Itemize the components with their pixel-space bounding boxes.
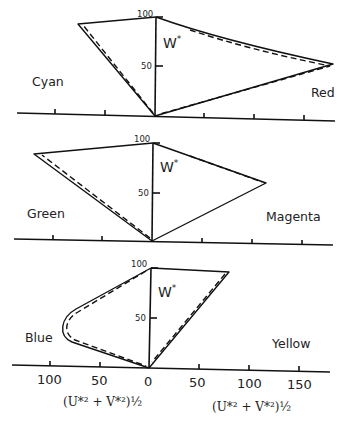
- magenta-boundary-solid: [152, 143, 266, 241]
- w-star-label: W*: [160, 158, 179, 175]
- label-yellow: Yellow: [271, 336, 310, 351]
- panel-cyan-red: 100 50 W* Cyan Red: [17, 9, 335, 121]
- color-solid-diagram: 100 50 W* Cyan Red 100 50 W* Green Magen…: [0, 0, 344, 428]
- horizontal-axis: [12, 365, 330, 372]
- x-tick-label: 0: [144, 374, 152, 389]
- label-cyan: Cyan: [32, 74, 64, 89]
- label-blue: Blue: [25, 330, 53, 345]
- panel-blue-yellow: 100 50 W* Blue Yellow 100 50 0 50 100 15…: [12, 259, 330, 414]
- x-axis-formula-left: (U*² + V*²)½: [63, 395, 142, 409]
- x-tick-label: 50: [189, 375, 206, 390]
- w-star-label: W*: [163, 34, 182, 51]
- tick-label-50: 50: [135, 313, 146, 323]
- x-tick-label: 50: [91, 373, 108, 388]
- tick-label-50: 50: [138, 188, 149, 198]
- w-axis: [155, 17, 156, 116]
- x-axis-formula-right: (U*² + V*²)½: [212, 400, 291, 414]
- tick-label-100: 100: [134, 134, 150, 144]
- x-tick-label: 100: [37, 372, 62, 387]
- red-boundary-solid: [155, 17, 333, 116]
- label-red: Red: [311, 85, 335, 100]
- tick-label-100: 100: [131, 259, 147, 269]
- label-green: Green: [27, 206, 65, 221]
- green-boundary-dashed: [42, 155, 150, 238]
- w-axis: [152, 143, 153, 241]
- label-magenta: Magenta: [266, 209, 321, 224]
- horizontal-axis: [14, 239, 333, 245]
- x-tick-label: 150: [287, 377, 312, 392]
- panel-green-magenta: 100 50 W* Green Magenta: [14, 134, 333, 245]
- tick-label-50: 50: [141, 61, 152, 71]
- x-tick-label: 100: [237, 376, 262, 391]
- green-boundary-solid: [34, 143, 153, 241]
- w-star-label: W*: [158, 283, 177, 300]
- horizontal-axis: [17, 113, 335, 121]
